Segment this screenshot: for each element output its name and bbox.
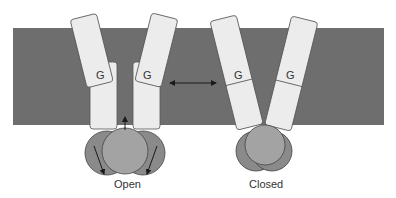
closed-center-domain [245,125,285,165]
closed-left-gate-label: G [234,69,243,81]
closed-right-gate-label: G [286,69,295,81]
open-center-domain [102,128,148,174]
open-label: Open [114,178,141,190]
closed-label: Closed [249,178,283,190]
membrane-band [13,28,384,125]
open-left-gate-label: G [96,69,105,81]
open-right-gate-label: G [143,69,152,81]
gating-diagram: G G Open G G Closed [0,0,396,198]
